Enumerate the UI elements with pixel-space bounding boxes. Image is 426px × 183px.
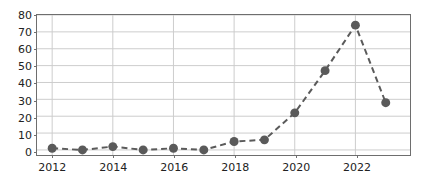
- y-axis-tick-label: 60: [18, 44, 32, 55]
- y-axis-tick-label: 0: [25, 146, 32, 157]
- data-point-marker: 2019: 6: [260, 135, 269, 144]
- y-axis-tick-mark: [34, 118, 37, 119]
- y-axis-tick-label: 20: [18, 112, 32, 123]
- x-axis-tick-mark: [52, 155, 53, 158]
- data-point-marker: 2021: 47: [321, 66, 330, 75]
- data-point-marker: 2017: 0: [199, 146, 208, 155]
- y-axis-tick-label: 10: [18, 129, 32, 140]
- data-points: 2012: 12013: 02014: 22015: 02016: 12017:…: [48, 21, 391, 155]
- y-axis-tick-mark: [34, 15, 37, 16]
- data-point-marker: 2016: 1: [169, 144, 178, 153]
- y-axis-tick-mark: [34, 49, 37, 50]
- x-axis-tick-mark: [174, 155, 175, 158]
- data-line: [52, 25, 386, 150]
- data-point-marker: 2022: 74: [351, 21, 360, 30]
- chart-figure: 2012: 12013: 02014: 22015: 02016: 12017:…: [0, 0, 426, 183]
- y-axis-tick-label: 70: [18, 27, 32, 38]
- y-axis-tick-label: 50: [18, 61, 32, 72]
- x-axis-tick-label: 2012: [38, 162, 66, 173]
- y-axis-tick-mark: [34, 66, 37, 67]
- gridlines: [37, 15, 410, 155]
- y-axis-tick-mark: [34, 32, 37, 33]
- x-axis-tick-mark: [357, 155, 358, 158]
- y-axis-tick-label: 30: [18, 95, 32, 106]
- data-point-marker: 2013: 0: [78, 146, 87, 155]
- chart-canvas: 2012: 12013: 02014: 22015: 02016: 12017:…: [37, 15, 410, 155]
- y-axis-tick-mark: [34, 135, 37, 136]
- data-point-marker: 2018: 5: [230, 137, 239, 146]
- y-axis-tick-mark: [34, 152, 37, 153]
- plot-area: 2012: 12013: 02014: 22015: 02016: 12017:…: [36, 14, 411, 156]
- x-axis-tick-mark: [235, 155, 236, 158]
- data-point-marker: 2020: 22: [290, 108, 299, 117]
- data-point-marker: 2023: 28: [381, 98, 390, 107]
- y-axis-tick-label: 40: [18, 78, 32, 89]
- x-axis-tick-label: 2018: [221, 162, 249, 173]
- y-axis-tick-mark: [34, 101, 37, 102]
- x-axis-tick-label: 2016: [160, 162, 188, 173]
- series-line: [52, 25, 386, 150]
- x-axis-tick-label: 2014: [99, 162, 127, 173]
- x-axis-tick-label: 2020: [282, 162, 310, 173]
- x-axis-tick-mark: [113, 155, 114, 158]
- x-axis-tick-mark: [296, 155, 297, 158]
- data-point-marker: 2015: 0: [139, 146, 148, 155]
- data-point-marker: 2014: 2: [108, 142, 117, 151]
- data-point-marker: 2012: 1: [48, 144, 57, 153]
- y-axis-tick-label: 80: [18, 10, 32, 21]
- x-axis-tick-label: 2022: [343, 162, 371, 173]
- y-axis-tick-mark: [34, 83, 37, 84]
